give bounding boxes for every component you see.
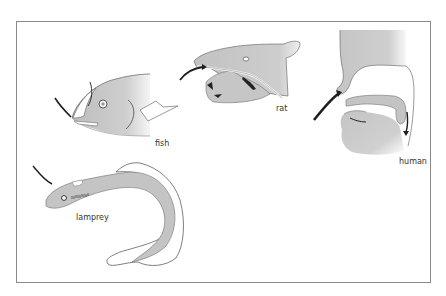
label-fish: fish xyxy=(155,139,169,148)
rat-arrow-in xyxy=(180,67,203,80)
human-nasal-region xyxy=(337,30,406,94)
label-human: human xyxy=(399,157,427,166)
label-lamprey: lamprey xyxy=(76,213,109,222)
fish-illustration xyxy=(55,74,178,136)
human-arrow-in xyxy=(314,94,338,120)
airflow-diagram xyxy=(0,0,446,296)
lamprey-eye-icon xyxy=(62,196,67,201)
lamprey-body xyxy=(46,172,175,262)
human-illustration xyxy=(314,30,414,155)
human-lower-jaw xyxy=(341,111,404,155)
rat-eye-icon xyxy=(243,57,249,61)
lamprey-arrow-in xyxy=(33,166,52,184)
label-rat: rat xyxy=(276,104,287,113)
fish-arrow-in xyxy=(55,98,71,117)
rat-illustration xyxy=(180,41,300,103)
